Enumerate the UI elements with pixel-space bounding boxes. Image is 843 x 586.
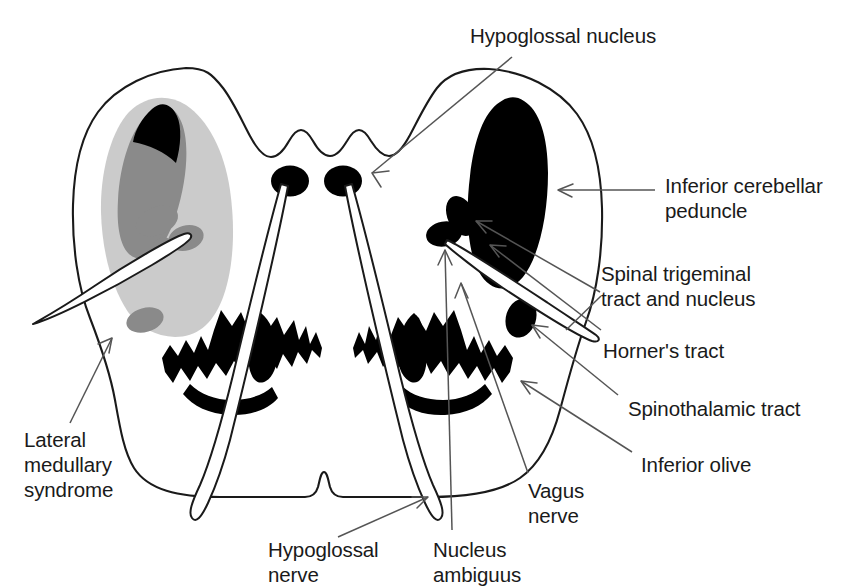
label-horners-tract: Horner's tract: [603, 338, 724, 363]
label-hypoglossal-nucleus: Hypoglossal nucleus: [470, 23, 656, 48]
leader-hypoglossal-nerve: [338, 497, 428, 537]
leader-inferior-olive: [521, 381, 632, 452]
label-nucleus-ambiguus-line2: ambiguus: [433, 562, 521, 586]
label-nucleus-ambiguus-line1: Nucleus: [433, 537, 506, 562]
label-spinothalamic-tract: Spinothalamic tract: [628, 396, 800, 421]
inferior-olive-right-hilum: [397, 384, 492, 415]
leader-inferior-cerebellar-peduncle: [558, 184, 655, 197]
label-inferior-cerebellar-peduncle-line2: peduncle: [665, 198, 747, 223]
label-vagus-nerve-line2: nerve: [528, 503, 579, 528]
label-lateral-medullary-syndrome-line3: syndrome: [24, 477, 113, 502]
medulla-cross-section-figure: Hypoglossal nucleus Inferior cerebellar …: [0, 0, 843, 586]
label-spinal-trigeminal-line1: Spinal trigeminal: [601, 261, 751, 286]
label-lateral-medullary-syndrome-line2: medullary: [24, 452, 112, 477]
hypoglossal-nucleus-right: [324, 166, 362, 197]
label-spinal-trigeminal-line2: tract and nucleus: [601, 286, 755, 311]
label-hypoglossal-nerve-line1: Hypoglossal: [268, 537, 379, 562]
label-inferior-cerebellar-peduncle-line1: Inferior cerebellar: [665, 173, 823, 198]
label-lateral-medullary-syndrome-line1: Lateral: [24, 427, 86, 452]
label-vagus-nerve-line1: Vagus: [528, 478, 584, 503]
hypoglossal-nucleus-left: [271, 166, 309, 197]
label-inferior-olive: Inferior olive: [641, 452, 751, 477]
leader-nucleus-ambiguus: [438, 250, 452, 530]
leader-lateral-medullary-syndrome: [70, 338, 112, 423]
horners-tract-right: [475, 230, 492, 244]
label-hypoglossal-nerve-line2: nerve: [268, 562, 319, 586]
